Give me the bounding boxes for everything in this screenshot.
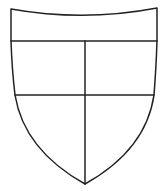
shield-diagram [0, 0, 166, 191]
region-sinister-lower [85, 95, 154, 184]
region-dexter-upper [11, 41, 85, 95]
region-sinister-upper [85, 41, 157, 95]
region-dexter-lower [15, 95, 85, 184]
